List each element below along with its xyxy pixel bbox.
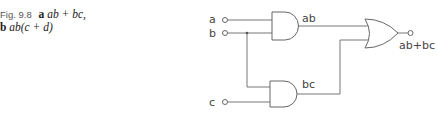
or-gate bbox=[365, 19, 398, 48]
input-label-a: a bbox=[209, 13, 216, 26]
input-label-b: b bbox=[209, 27, 216, 40]
input-terminal-c bbox=[223, 100, 228, 105]
label-bc: bc bbox=[302, 78, 315, 91]
logic-circuit-diagram: a b c ab bc ab+bc bbox=[0, 0, 437, 114]
and-gate-ab bbox=[272, 12, 299, 40]
junction-dot bbox=[246, 32, 249, 35]
wire-b-branch bbox=[247, 33, 270, 87]
input-terminal-b bbox=[223, 31, 228, 36]
input-label-c: c bbox=[209, 96, 215, 109]
input-terminal-a bbox=[223, 18, 228, 23]
and-gate-bc bbox=[270, 81, 297, 107]
output-terminal bbox=[408, 31, 413, 36]
label-output: ab+bc bbox=[399, 39, 435, 52]
label-ab: ab bbox=[302, 12, 316, 25]
